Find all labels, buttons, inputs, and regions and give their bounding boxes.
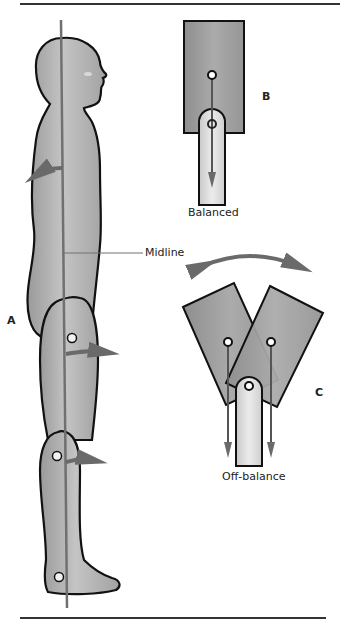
off-balance-diagram (183, 256, 323, 466)
bottom-rule (20, 617, 326, 619)
off-balance-label: Off-balance (222, 470, 286, 483)
ear-mark (84, 72, 92, 76)
off-balance-cog-left (224, 338, 232, 346)
balance-illustration (0, 0, 341, 620)
thigh-outline (40, 297, 98, 440)
balanced-label: Balanced (188, 206, 239, 219)
knee-joint-marker (53, 452, 62, 461)
off-balance-pivot (245, 382, 253, 390)
human-figure (28, 20, 144, 608)
swing-arrow-icon (203, 256, 298, 266)
hip-joint-marker (68, 334, 77, 343)
midline-label: Midline (145, 246, 184, 259)
balanced-center-of-gravity (208, 71, 216, 79)
panel-label-c: C (315, 386, 323, 399)
off-balance-cog-right (267, 338, 275, 346)
panel-label-b: B (262, 90, 270, 103)
torso-head-outline (28, 38, 107, 336)
panel-label-a: A (7, 314, 16, 327)
ankle-joint-marker (55, 573, 64, 582)
knee-arrow-icon (66, 459, 92, 462)
balanced-diagram (184, 21, 244, 205)
